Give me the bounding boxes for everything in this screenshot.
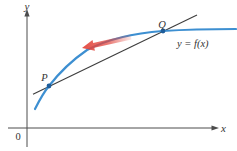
diagram-canvas: y x 0 P Q y = f(x) [0, 0, 237, 151]
motion-arrow-icon [82, 35, 132, 51]
origin-label: 0 [15, 131, 20, 142]
x-axis-arrowhead-icon [212, 125, 220, 130]
curve-equation-label: y = f(x) [176, 38, 209, 50]
point-p-dot [47, 84, 52, 89]
secant-line-diagram: y x 0 P Q y = f(x) [0, 0, 237, 151]
x-axis-label: x [220, 122, 226, 134]
secant-line-pq [33, 15, 197, 94]
point-p-label: P [40, 72, 48, 83]
point-q-label: Q [158, 19, 166, 30]
y-axis-label: y [24, 0, 30, 12]
